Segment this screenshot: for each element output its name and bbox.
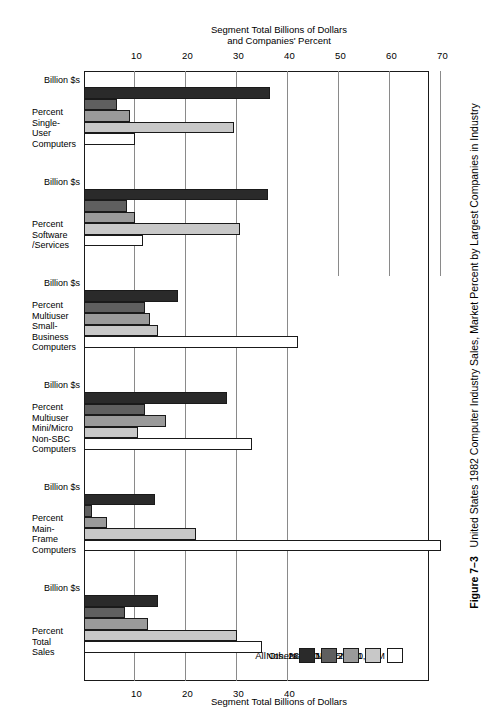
- billion-dollars-label: Billion $s: [44, 380, 80, 390]
- bar-group: [84, 274, 429, 376]
- legend-swatch-n11_25: [343, 648, 359, 663]
- bar: [84, 110, 130, 122]
- legend-swatch-n2_10: [365, 648, 381, 663]
- bar: [84, 517, 107, 529]
- bar: [84, 302, 145, 314]
- bar: [84, 313, 150, 325]
- tick-label-top: 10: [131, 688, 142, 699]
- legend-label: All Others: [255, 650, 297, 661]
- bar: [84, 189, 268, 201]
- bar: [84, 505, 92, 517]
- billion-dollars-label: Billion $s: [44, 75, 80, 85]
- group-label: Percent Multiuser Mini/Micro Non-SBC Com…: [32, 401, 80, 454]
- bar: [84, 99, 117, 111]
- bar: [84, 200, 127, 212]
- tick-label-bottom: 20: [182, 50, 193, 61]
- group-label: Percent Software /Services: [32, 219, 80, 251]
- bar: [84, 528, 196, 540]
- tick-label-bottom: 10: [131, 50, 142, 61]
- group-label: Percent Total Sales: [32, 625, 80, 657]
- bar: [84, 392, 227, 404]
- gridline: [440, 71, 441, 276]
- bar: [84, 427, 138, 439]
- bar: [84, 607, 125, 619]
- tick-label-bottom: 70: [437, 50, 448, 61]
- legend-swatch-ibm: [387, 648, 403, 663]
- bar: [84, 290, 178, 302]
- bar: [84, 325, 158, 337]
- bar: [84, 595, 158, 607]
- bar: [84, 415, 166, 427]
- bar: [84, 87, 270, 99]
- legend-swatch-others: [299, 648, 315, 663]
- bar: [84, 122, 234, 134]
- tick-label-bottom: 60: [386, 50, 397, 61]
- bar: [84, 336, 298, 348]
- bar-group: [84, 579, 429, 681]
- bar-group: [84, 376, 429, 478]
- bar: [84, 404, 145, 416]
- bar: [84, 641, 263, 653]
- bar: [84, 438, 252, 450]
- figure-number: Figure 7–3: [468, 556, 480, 609]
- group-label: Percent Main- Frame Computers: [32, 513, 80, 555]
- bottom-axis-title: Segment Total Billions of Dollars and Co…: [169, 24, 389, 46]
- billion-dollars-label: Billion $s: [44, 278, 80, 288]
- bar: [84, 618, 148, 630]
- bar-group: [84, 478, 429, 580]
- group-label: Percent Multiuser Small- Business Comput…: [32, 299, 80, 352]
- billion-dollars-label: Billion $s: [44, 482, 80, 492]
- caption-text: United States 1982 Computer Industry Sal…: [468, 103, 480, 547]
- group-label: Percent Single- User Computers: [32, 107, 80, 149]
- tick-label-bottom: 30: [233, 50, 244, 61]
- billion-dollars-label: Billion $s: [44, 583, 80, 593]
- bar: [84, 540, 441, 552]
- billion-dollars-label: Billion $s: [44, 177, 80, 187]
- bar: [84, 630, 237, 642]
- tick-label-bottom: 40: [284, 50, 295, 61]
- bar: [84, 494, 155, 506]
- legend-swatch-n26_50: [321, 648, 337, 663]
- bar-group: [84, 173, 429, 275]
- bar: [84, 212, 135, 224]
- top-axis-title: Segment Total Billions of Dollars: [159, 696, 399, 707]
- tick-label-bottom: 50: [335, 50, 346, 61]
- bar: [84, 235, 143, 247]
- bar: [84, 133, 135, 145]
- figure-root: 10203040 10203040506070 Segment Total Bi…: [0, 0, 493, 711]
- bar-group: [84, 71, 429, 173]
- chart-rotated-container: 10203040 10203040506070 Segment Total Bi…: [0, 0, 493, 711]
- figure-caption: Figure 7–3 United States 1982 Computer I…: [461, 0, 487, 711]
- bar: [84, 223, 240, 235]
